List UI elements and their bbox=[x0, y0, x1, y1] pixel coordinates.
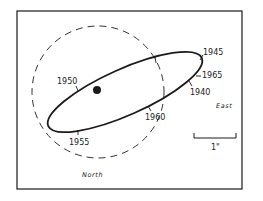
scale-bar bbox=[194, 133, 236, 138]
label-1940: 1940 bbox=[190, 88, 210, 97]
tick-1940 bbox=[189, 81, 192, 86]
label-1945: 1945 bbox=[203, 48, 223, 57]
orbit-diagram: 1945 1965 1940 1950 1960 1955 East North… bbox=[0, 0, 263, 201]
epoch-ticks bbox=[76, 55, 203, 135]
direction-east-label: East bbox=[216, 102, 232, 110]
label-1950: 1950 bbox=[57, 77, 77, 86]
tick-circle-crossing bbox=[155, 57, 156, 63]
label-1960: 1960 bbox=[145, 113, 165, 122]
label-1955: 1955 bbox=[69, 138, 89, 147]
direction-north-label: North bbox=[82, 171, 103, 179]
orbit-ellipse bbox=[39, 37, 211, 147]
diagram-frame bbox=[17, 11, 242, 189]
label-1965: 1965 bbox=[202, 71, 222, 80]
scale-bar-label: 1" bbox=[211, 143, 220, 152]
tick-1950 bbox=[76, 86, 78, 91]
primary-star-dot bbox=[93, 86, 101, 94]
